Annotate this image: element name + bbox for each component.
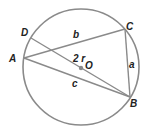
label-side-c: c: [72, 78, 78, 89]
label-point-c: C: [126, 21, 134, 32]
label-side-a: a: [129, 59, 135, 70]
label-center-o: O: [85, 60, 93, 71]
label-point-a: A: [8, 53, 16, 64]
label-point-b: B: [130, 98, 137, 109]
label-side-b: b: [73, 29, 79, 40]
label-diameter-2r: 2 r: [72, 53, 86, 64]
center-point-o: [79, 66, 83, 70]
label-point-d: D: [21, 27, 28, 38]
circle-diagram: D A C B O b c a 2 r: [0, 0, 157, 134]
